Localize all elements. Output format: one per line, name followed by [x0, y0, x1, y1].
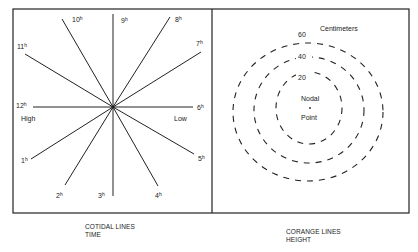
hour-label-12: 12h [16, 101, 27, 109]
left-caption-title: COTIDAL LINES [85, 223, 135, 231]
left-caption-subtitle: TIME [85, 231, 135, 239]
star-center [111, 105, 114, 108]
contour-label-40: 40 [298, 53, 306, 60]
nodal-point-marker [309, 107, 311, 109]
cotidal-line-8h [113, 17, 170, 107]
corange-contour-20 [276, 72, 342, 144]
cotidal-line-4h [113, 107, 158, 186]
cotidal-line-10h [62, 19, 113, 107]
right-caption: CORANGE LINES HEIGHT [286, 228, 341, 244]
nodal-label: Nodal [301, 95, 320, 102]
hour-label-8: 8h [175, 15, 182, 23]
cotidal-line-1h [31, 107, 113, 159]
hour-label-4: 4h [155, 191, 162, 199]
low-label: Low [174, 115, 188, 122]
hour-label-1: 1h [21, 156, 28, 164]
cotidal-line-2h [65, 107, 113, 185]
right-caption-title: CORANGE LINES [286, 228, 341, 236]
cotidal-lines [25, 14, 201, 196]
cotidal-line-7h [113, 52, 201, 107]
hour-label-10: 10h [72, 15, 83, 23]
hour-label-7: 7h [196, 39, 203, 47]
diagram-frame [13, 9, 409, 213]
hour-label-11: 11h [17, 42, 27, 50]
high-label: High [21, 115, 36, 123]
hour-label-5: 5h [198, 154, 205, 162]
corange-contour-60 [233, 43, 383, 181]
right-caption-subtitle: HEIGHT [286, 236, 341, 244]
hour-label-6: 6h [197, 103, 204, 111]
hour-label-9: 9h [121, 16, 128, 24]
point-label: Point [301, 114, 317, 121]
corange-contours [233, 43, 383, 181]
tide-diagram: 10h 9h 8h 11h 7h 12h 6h 1h 5h 2h 3h 4h H… [0, 0, 418, 252]
hour-label-3: 3h [98, 191, 105, 199]
unit-label: Centimeters [320, 25, 358, 32]
contour-label-20: 20 [298, 74, 306, 81]
contour-label-60: 60 [298, 31, 306, 38]
hour-label-2: 2h [56, 191, 63, 199]
cotidal-line-11h [25, 54, 113, 107]
left-caption: COTIDAL LINES TIME [85, 223, 135, 239]
